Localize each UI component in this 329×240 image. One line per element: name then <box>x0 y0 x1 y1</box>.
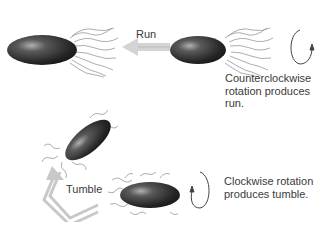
run-caption: Counterclockwise rotation produces run. <box>225 72 311 110</box>
clockwise-arrow-icon <box>190 172 209 208</box>
run-arrow-label: Run <box>136 28 156 41</box>
tumble-caption-line: produces tumble. <box>224 188 313 201</box>
bacterium-run-left-icon <box>7 28 118 77</box>
counterclockwise-arrow-icon <box>291 30 314 64</box>
tumble-caption-line: Clockwise rotation <box>224 175 313 188</box>
run-arrow-icon <box>122 38 170 56</box>
bacterium-tumble-bottom-icon <box>108 172 180 215</box>
run-caption-line: Counterclockwise <box>225 72 311 85</box>
bacterium-run-right-icon <box>170 28 273 77</box>
tumble-caption: Clockwise rotation produces tumble. <box>224 175 313 200</box>
tumble-arrow-label: Tumble <box>66 183 102 196</box>
run-caption-line: run. <box>225 97 311 110</box>
run-caption-line: rotation produces <box>225 85 311 98</box>
